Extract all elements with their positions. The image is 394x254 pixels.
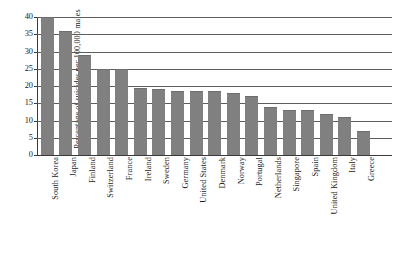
y-tick-label-10: 10 [7, 117, 33, 125]
bar [59, 31, 72, 155]
x-tick-cell: France [112, 157, 131, 253]
bar [245, 96, 258, 155]
y-tick-mark-35 [34, 34, 37, 35]
x-tick-cell: Norway [224, 157, 243, 253]
bar-cell [280, 17, 299, 155]
x-tick-cell: Switzerland [94, 157, 113, 253]
x-tick-label: Greece [367, 157, 376, 181]
bar [190, 91, 203, 155]
x-tick-cell: Germany [168, 157, 187, 253]
y-tick-label-25: 25 [7, 65, 33, 73]
bar [171, 91, 184, 155]
y-tick-mark-15 [34, 103, 37, 104]
bar [115, 69, 128, 155]
bar [227, 93, 240, 155]
y-tick-label-20: 20 [7, 82, 33, 90]
bar [320, 114, 333, 155]
x-tick-cell: Ireland [131, 157, 150, 253]
bar-cell [298, 17, 317, 155]
bar [283, 110, 296, 155]
y-tick-mark-20 [34, 86, 37, 87]
bar-cell [354, 17, 373, 155]
bar [357, 131, 370, 155]
bar [208, 91, 221, 155]
y-tick-mark-5 [34, 138, 37, 139]
bar [264, 107, 277, 155]
y-tick-label-15: 15 [7, 99, 33, 107]
x-axis-line [37, 155, 392, 156]
bar-chart-figure: Percentage of suicides per 100,000 males… [0, 0, 394, 254]
x-tick-cell: Portugal [243, 157, 262, 253]
bar [152, 89, 165, 155]
bar [41, 17, 54, 155]
bar-series [38, 17, 392, 155]
y-tick-mark-25 [34, 69, 37, 70]
x-tick-cell: Singapore [280, 157, 299, 253]
y-tick-mark-40 [34, 17, 37, 18]
x-tick-cell: Sweden [150, 157, 169, 253]
bar-cell [317, 17, 336, 155]
bar-cell [168, 17, 187, 155]
plot-area: 0510152025303540 [37, 17, 392, 155]
y-tick-label-35: 35 [7, 30, 33, 38]
bar-cell [150, 17, 169, 155]
bar-cell [243, 17, 262, 155]
x-tick-cell: United States [187, 157, 206, 253]
bar-cell [205, 17, 224, 155]
y-tick-label-5: 5 [7, 134, 33, 142]
y-tick-label-0: 0 [7, 151, 33, 159]
bar [301, 110, 314, 155]
bar-cell [336, 17, 355, 155]
bar-cell [57, 17, 76, 155]
x-tick-cell: Japan [57, 157, 76, 253]
bar-cell [38, 17, 57, 155]
bar-cell [261, 17, 280, 155]
y-tick-mark-10 [34, 121, 37, 122]
x-tick-cell: Greece [354, 157, 373, 253]
bar [78, 55, 91, 155]
x-tick-cell: South Korea [38, 157, 57, 253]
bar-cell [187, 17, 206, 155]
bar-cell [131, 17, 150, 155]
x-tick-cell: Netherlands [261, 157, 280, 253]
x-tick-cell: Finland [75, 157, 94, 253]
y-tick-mark-0 [34, 155, 37, 156]
x-tick-cell: Spain [298, 157, 317, 253]
bar [134, 88, 147, 155]
bar-cell [112, 17, 131, 155]
bar-cell [75, 17, 94, 155]
bar-cell [224, 17, 243, 155]
x-tick-cell: United Kingdom [317, 157, 336, 253]
x-tick-cell: Italy [336, 157, 355, 253]
y-tick-mark-30 [34, 52, 37, 53]
bar [97, 69, 110, 155]
x-axis-tick-labels: South KoreaJapanFinlandSwitzerlandFrance… [38, 157, 392, 253]
bar [338, 117, 351, 155]
bar-cell [94, 17, 113, 155]
x-tick-cell: Denmark [205, 157, 224, 253]
y-tick-label-40: 40 [7, 13, 33, 21]
y-tick-label-30: 30 [7, 48, 33, 56]
